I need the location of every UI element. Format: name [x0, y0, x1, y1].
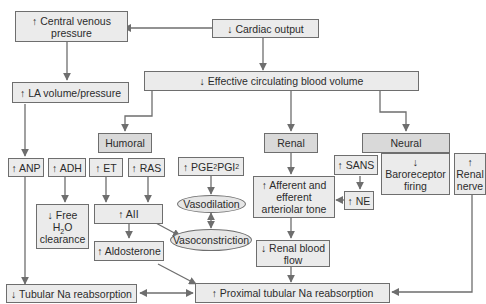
node-humoral: Humoral [98, 133, 152, 153]
node-proximal-tubular-na-reabsorption: ↑ Proximal tubular Na reabsorption [195, 283, 390, 303]
node-vasoconstriction: Vasoconstriction [170, 229, 252, 251]
free-water-post: O clearance [40, 221, 86, 245]
node-aii: ↑ AII [94, 204, 163, 224]
node-aldosterone: ↑ Aldosterone [94, 241, 164, 261]
node-tubular-na-reabsorption: ↓ Tubular Na reabsorption [6, 284, 137, 303]
node-effective-circulating-blood-volume: ↓ Effective circulating blood volume [144, 71, 419, 91]
arrow-aldosterone-to-proximal [158, 264, 196, 284]
node-renal: Renal [264, 133, 318, 153]
arrow-ecbv-to-neural [380, 91, 406, 131]
node-renal-nerve: ↑ Renal nerve [454, 153, 486, 195]
node-ne: ↑ NE [344, 191, 374, 210]
node-adh: ↑ ADH [48, 158, 86, 177]
arrow-renal-nerve-to-proximal [392, 190, 472, 292]
node-la-volume-pressure: ↑ LA volume/pressure [12, 82, 129, 103]
node-pge2-pgi2: ↑ PGE2 PGI2 [178, 157, 244, 176]
arrow-ecbv-to-humoral [125, 91, 152, 131]
node-neural: Neural [362, 133, 450, 153]
node-ras: ↑ RAS [128, 158, 165, 177]
node-baroreceptor-firing: ↓ Baroreceptor firing [381, 153, 450, 195]
node-afferent-efferent-tone: ↑ Afferent and efferent arteriolar tone [253, 176, 335, 218]
node-sans: ↑ SANS [334, 155, 378, 175]
node-renal-blood-flow: ↓ Renal blood flow [256, 240, 330, 267]
pgi-label: PGI [217, 161, 235, 173]
diagram-canvas: ↑ Central venous pressure ↓ Cardiac outp… [0, 0, 486, 304]
pge-label: ↑ PGE [183, 161, 213, 173]
node-cardiac-output: ↓ Cardiac output [212, 19, 319, 38]
node-et: ↑ ET [89, 158, 123, 177]
free-water-label: ↓ Free H2O clearance [40, 209, 86, 245]
node-vasodilation: Vasodilation [177, 195, 246, 213]
node-anp: ↑ ANP [8, 158, 44, 177]
node-free-water-clearance: ↓ Free H2O clearance [36, 204, 89, 249]
node-central-venous-pressure: ↑ Central venous pressure [15, 11, 128, 42]
